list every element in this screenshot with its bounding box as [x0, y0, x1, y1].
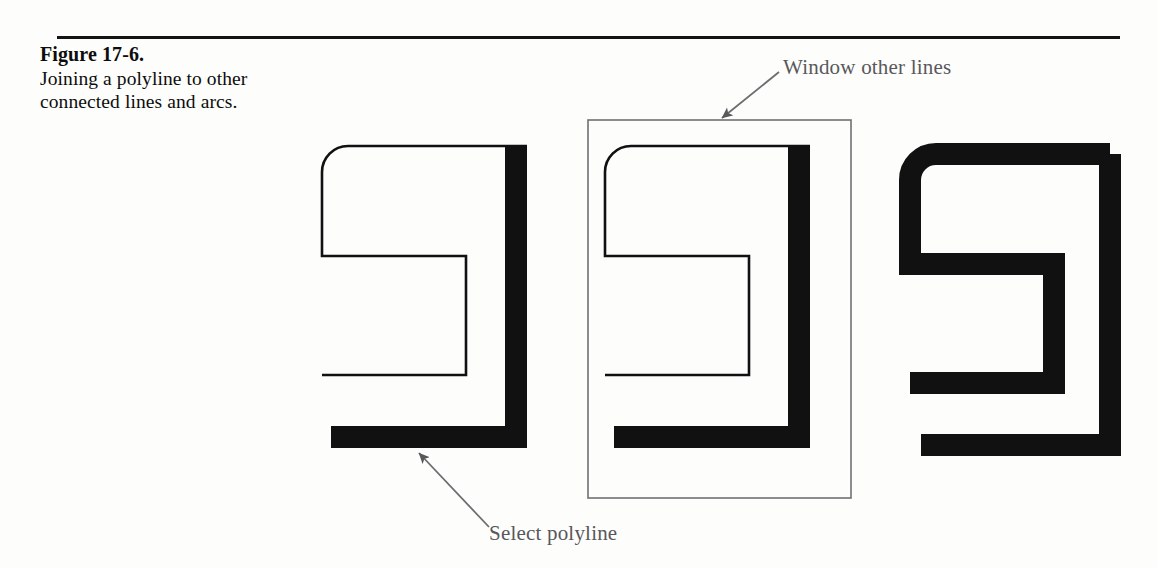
- window-leader-arrow: [722, 72, 779, 118]
- panel-1-thin-lines: [322, 146, 527, 375]
- panel-2-thick-polyline: [614, 146, 799, 437]
- panel-1-select-polyline: [322, 146, 527, 437]
- panel-2-thin-lines: [605, 146, 810, 375]
- figure-drawing: [0, 0, 1158, 568]
- annotation-select-polyline: Select polyline: [489, 521, 617, 546]
- panel-3-joined-polyline: [910, 154, 1110, 445]
- panel-1-thick-polyline: [331, 146, 516, 437]
- annotation-window-other-lines: Window other lines: [783, 55, 951, 80]
- select-leader-arrow: [419, 453, 489, 527]
- panel-2-window-other-lines: [588, 120, 851, 498]
- panel-3-thick-outline: [910, 154, 1110, 383]
- figure-page: Figure 17-6. Joining a polyline to other…: [0, 0, 1158, 568]
- panel-3-thick-polyline: [921, 154, 1110, 445]
